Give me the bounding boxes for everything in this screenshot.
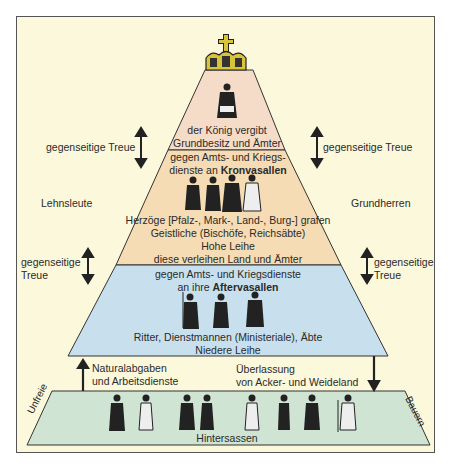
kronvasallen-text-3: Herzöge [Pfalz-, Mark-, Land-, Burg-] gr… <box>126 214 331 227</box>
king-text-1: der König vergibt <box>187 124 266 137</box>
naturalabgaben-label-1: Naturalabgaben <box>92 362 167 375</box>
ueberlassung-label-1: Überlassung <box>236 363 295 376</box>
treue-label-mid-right-2: Treue <box>374 269 401 282</box>
kronvasallen-text-2: dienste an Kronvasallen <box>169 164 286 177</box>
treue-label-top-left: gegenseitige Treue <box>46 141 135 154</box>
treue-label-top-right: gegenseitige Treue <box>323 141 412 154</box>
lehnsleute-label: Lehnsleute <box>41 197 92 210</box>
hintersassen-label: Hintersassen <box>196 432 257 445</box>
kronvasallen-text-5: Hohe Leihe <box>201 240 255 253</box>
kronvasallen-text-6: diese verleihen Land und Ämter <box>154 253 302 266</box>
double-arrow-icon <box>136 128 146 167</box>
treue-label-mid-left-1: gegenseitige <box>21 256 81 269</box>
crown-icon <box>206 34 246 70</box>
treue-label-mid-right-1: gegenseitige <box>374 256 434 269</box>
king-text-2: Grundbesitz und Ämter <box>173 137 281 150</box>
double-arrow-icon <box>362 249 372 283</box>
kronvasallen-text-4: Geistliche (Bischöfe, Reichsäbte) <box>151 227 306 240</box>
treue-label-mid-left-2: Treue <box>21 269 48 282</box>
double-arrow-icon <box>83 249 93 283</box>
kronvasallen-text-1: gegen Amts- und Kriegs- <box>170 151 286 164</box>
aftervasallen-text-2: an ihre Aftervasallen <box>178 281 279 294</box>
aftervasallen-text-4: Niedere Leihe <box>195 344 260 357</box>
aftervasallen-text-3: Ritter, Dienstmannen (Ministeriale), Äbt… <box>134 331 323 344</box>
ueberlassung-label-2: von Acker- und Weideland <box>236 376 358 389</box>
grundherren-label: Grundherren <box>351 197 411 210</box>
aftervasallen-text-1: gegen Amts- und Kriegsdienste <box>155 268 301 281</box>
naturalabgaben-label-2: und Arbeitsdienste <box>92 375 178 388</box>
up-arrow-icon <box>78 360 88 391</box>
double-arrow-icon <box>312 128 322 167</box>
down-arrow-icon <box>369 356 379 390</box>
